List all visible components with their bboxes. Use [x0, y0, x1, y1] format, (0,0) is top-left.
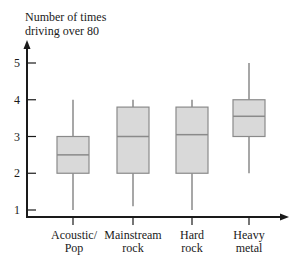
plot-area: [0, 0, 298, 263]
iqr-box: [117, 107, 149, 173]
y-tick-label-4: 4: [10, 94, 20, 106]
x-category-heavy-metal: Heavy metal: [214, 229, 284, 255]
x-axis-arrow-icon: [280, 214, 289, 221]
iqr-box: [233, 100, 265, 137]
y-tick-label-1: 1: [10, 204, 20, 216]
iqr-box: [176, 107, 208, 173]
y-axis-label-line2: driving over 80: [25, 24, 99, 38]
x-category-line2: metal: [214, 242, 284, 255]
y-tick-label-2: 2: [10, 167, 20, 179]
y-axis-label-line1: Number of times: [25, 10, 106, 24]
y-tick-label-5: 5: [10, 57, 20, 69]
box-plot-chart: Number of times driving over 80 5 4 3 2 …: [0, 0, 298, 263]
y-axis-arrow-icon: [24, 40, 31, 49]
y-tick-label-3: 3: [10, 131, 20, 143]
